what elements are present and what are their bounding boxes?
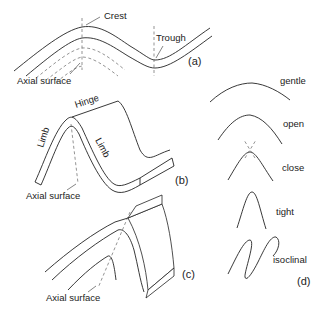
axial-surface-c-label: Axial surface [46,292,100,303]
fold-type-close-label: close [282,162,304,173]
axial-surface-b-label: Axial surface [26,190,80,201]
fold-c-middle-surface [52,230,144,292]
trough-label: Trough [156,32,186,43]
axial-surface-a-label: Axial surface [17,75,71,86]
fold-a-dashed-layer-1 [36,48,125,78]
limb-right-label: Limb [93,136,112,159]
fold-type-isoclinal-label: isoclinal [273,254,307,265]
fold-c-inner-surface [68,256,116,290]
panel-c: Axial surface (c) [45,195,195,303]
panel-a-tag: (a) [188,55,201,67]
hinge-label: Hinge [73,92,100,110]
axial-line-c [98,212,130,288]
fold-gentle [210,83,290,102]
fold-b-inner-surface [41,126,174,192]
panel-d: gentle open close tight isoclinal (d) [210,75,310,287]
fold-isoclinal [228,237,279,279]
crest-label: Crest [104,10,127,21]
fold-diagram: Crest Trough Axial surface (a) Hinge Lim… [0,0,327,314]
fold-open [218,115,282,144]
limb-left-label: Limb [34,126,51,149]
panel-b: Hinge Limb Limb Axial surface (b) [26,92,188,201]
panel-d-tag: (d) [297,275,310,287]
fold-tight [237,192,266,229]
axial-line-b [71,124,78,183]
trough-leader [156,46,163,58]
panel-a: Crest Trough Axial surface (a) [14,10,212,86]
fold-type-open-label: open [283,118,304,129]
fold-c-outer-surface [45,218,128,272]
fold-b-back-top-edge [72,101,170,157]
axial-a-leader [70,63,80,74]
panel-b-tag: (b) [175,174,188,186]
fold-type-tight-label: tight [276,206,294,217]
crest-leader [86,17,100,25]
fold-close-limb-extension [244,140,256,158]
panel-c-tag: (c) [182,268,195,280]
fold-type-gentle-label: gentle [280,75,306,86]
fold-close [228,152,273,181]
fold-b-front-end [35,158,174,185]
